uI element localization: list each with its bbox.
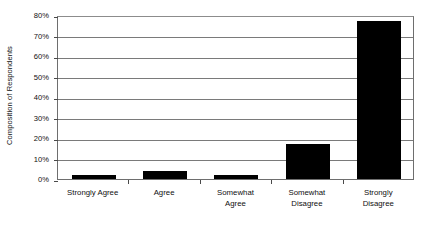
y-axis-tick-label: 80% bbox=[34, 12, 49, 20]
y-axis-tick-label: 70% bbox=[34, 33, 49, 41]
y-axis-tick-labels: 0%10%20%30%40%50%60%70%80% bbox=[20, 16, 53, 180]
x-axis-tick-label: Agree bbox=[128, 188, 199, 199]
bar-slot bbox=[201, 17, 272, 179]
bar[interactable] bbox=[357, 21, 401, 179]
bar-slot bbox=[129, 17, 200, 179]
y-axis-tick-label: 40% bbox=[34, 94, 49, 102]
bar[interactable] bbox=[143, 171, 187, 179]
y-axis-tick-label: 30% bbox=[34, 115, 49, 123]
x-axis-tick-label: Somewhat Agree bbox=[200, 188, 271, 209]
x-axis-tickmark bbox=[128, 180, 129, 184]
x-axis-tick-label: Strongly Disagree bbox=[343, 188, 414, 209]
bar-slot bbox=[344, 17, 415, 179]
y-axis-title-text: Composition of Respondents bbox=[5, 46, 14, 145]
bar[interactable] bbox=[72, 175, 116, 179]
x-axis-tick-labels: Strongly AgreeAgreeSomewhat AgreeSomewha… bbox=[57, 188, 414, 220]
x-axis-tickmarks bbox=[57, 180, 414, 185]
x-axis-tick-label: Somewhat Disagree bbox=[271, 188, 342, 209]
bar-chart: Composition of Respondents 0%10%20%30%40… bbox=[0, 0, 428, 229]
x-axis-tickmark bbox=[200, 180, 201, 184]
bar-slot bbox=[58, 17, 129, 179]
y-axis-tick-label: 60% bbox=[34, 53, 49, 61]
y-axis-tick-label: 0% bbox=[38, 176, 49, 184]
bars-group bbox=[58, 17, 413, 179]
y-axis-title: Composition of Respondents bbox=[0, 0, 18, 190]
y-axis-tick-label: 10% bbox=[34, 156, 49, 164]
x-axis-tick-label: Strongly Agree bbox=[57, 188, 128, 199]
y-axis-tick-label: 50% bbox=[34, 74, 49, 82]
bar[interactable] bbox=[214, 175, 258, 179]
bar-slot bbox=[272, 17, 343, 179]
plot-area bbox=[57, 16, 414, 180]
bar[interactable] bbox=[286, 144, 330, 179]
x-axis-tickmark bbox=[271, 180, 272, 184]
x-axis-tickmark bbox=[343, 180, 344, 184]
y-axis-tick-label: 20% bbox=[34, 135, 49, 143]
